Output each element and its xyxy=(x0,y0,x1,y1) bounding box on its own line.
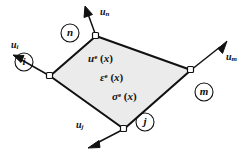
vector-label-u-j-sub: j xyxy=(82,123,84,131)
vector-u-m xyxy=(191,41,227,70)
node-label-n: n xyxy=(61,27,79,38)
diagram-canvas xyxy=(0,0,248,154)
node-marker-i xyxy=(47,73,53,79)
field-displacement-close: ) xyxy=(109,52,113,64)
node-marker-m xyxy=(188,67,194,73)
vector-label-u-i: ui xyxy=(11,40,19,51)
vector-label-u-n-sub: n xyxy=(106,10,110,18)
finite-element-diagram: i j m n ui uj um un ue (x) εe (x) σe (x) xyxy=(0,0,248,154)
field-stress-close: ) xyxy=(133,90,137,102)
vector-u-j xyxy=(88,129,124,148)
vector-label-u-m-sub: m xyxy=(232,55,237,63)
node-label-j: j xyxy=(136,116,154,127)
node-label-i: i xyxy=(15,56,33,67)
vector-label-u-m: um xyxy=(226,52,237,63)
vector-label-u-n: un xyxy=(100,7,109,18)
vector-label-u-i-sub: i xyxy=(17,43,19,51)
node-marker-j xyxy=(121,126,127,132)
node-label-m: m xyxy=(195,86,213,97)
field-label-stress: σe (x) xyxy=(112,91,137,102)
field-label-displacement: ue (x) xyxy=(88,53,113,64)
field-strain-close: ) xyxy=(120,71,124,83)
node-marker-n xyxy=(93,33,99,39)
vector-label-u-j: uj xyxy=(76,120,84,131)
field-label-strain: εe (x) xyxy=(100,72,123,83)
vector-u-n xyxy=(84,6,96,36)
